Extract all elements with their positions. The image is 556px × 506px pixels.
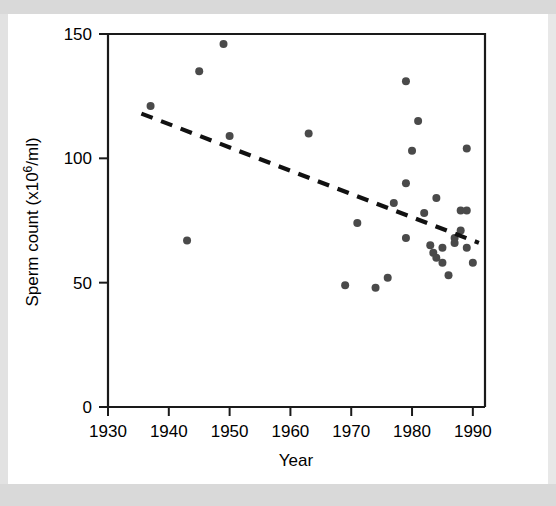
data-point: [463, 244, 471, 252]
x-axis-ticks: [108, 407, 473, 416]
data-point: [220, 40, 228, 48]
y-axis-tick-labels: 050100150: [64, 25, 92, 417]
data-point: [414, 117, 422, 125]
x-tick-label: 1930: [89, 422, 127, 441]
svg-text:Sperm count (x106/ml): Sperm count (x106/ml): [21, 137, 42, 306]
data-point: [445, 271, 453, 279]
data-point: [147, 102, 155, 110]
data-points: [147, 40, 477, 292]
data-point: [353, 219, 361, 227]
y-axis-title: Sperm count (x106/ml): [21, 137, 42, 306]
data-point: [402, 77, 410, 85]
x-axis-title: Year: [279, 451, 314, 470]
plot-frame: [108, 34, 485, 407]
data-point: [426, 241, 434, 249]
data-point: [390, 199, 398, 207]
x-tick-label: 1950: [211, 422, 249, 441]
data-point: [305, 129, 313, 137]
x-tick-label: 1990: [454, 422, 492, 441]
y-axis-ticks: [99, 34, 108, 407]
data-point: [341, 281, 349, 289]
data-point: [469, 259, 477, 267]
data-point: [183, 236, 191, 244]
scatter-chart: 1930194019501960197019801990 050100150 Y…: [0, 0, 556, 506]
data-point: [384, 274, 392, 282]
data-point: [195, 67, 203, 75]
y-tick-label: 100: [64, 149, 92, 168]
data-point: [438, 259, 446, 267]
x-axis-tick-labels: 1930194019501960197019801990: [89, 422, 492, 441]
data-point: [463, 144, 471, 152]
y-axis-title-post: /ml): [23, 137, 42, 165]
data-point: [408, 147, 416, 155]
figure-page: 1930194019501960197019801990 050100150 Y…: [0, 0, 556, 506]
y-tick-label: 150: [64, 25, 92, 44]
x-tick-label: 1960: [272, 422, 310, 441]
data-point: [432, 194, 440, 202]
y-tick-label: 0: [83, 398, 92, 417]
data-point: [402, 179, 410, 187]
data-point: [420, 209, 428, 217]
y-axis-title-pre: Sperm count (x10: [23, 172, 42, 306]
data-point: [438, 244, 446, 252]
y-tick-label: 50: [73, 274, 92, 293]
data-point: [372, 284, 380, 292]
data-point: [402, 234, 410, 242]
x-tick-label: 1980: [393, 422, 431, 441]
data-point: [451, 239, 459, 247]
x-tick-label: 1940: [150, 422, 188, 441]
data-point: [463, 207, 471, 215]
data-point: [226, 132, 234, 140]
x-tick-label: 1970: [332, 422, 370, 441]
